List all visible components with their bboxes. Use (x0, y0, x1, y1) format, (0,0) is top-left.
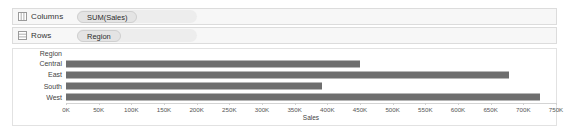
bar-west[interactable] (66, 94, 540, 101)
row-label-west[interactable]: West (13, 94, 66, 101)
bar-central[interactable] (66, 60, 360, 67)
row-label-central[interactable]: Central (13, 60, 66, 67)
x-axis-tick-label: 750K (549, 106, 563, 113)
x-axis-tick-label: 450K (353, 106, 367, 113)
chart-panel: Region CentralEastSouthWest Sales 0K50K1… (12, 48, 557, 126)
x-axis-tick (458, 103, 459, 105)
x-axis-title: Sales (66, 114, 556, 121)
x-axis: Sales 0K50K100K150K200K250K300K350K400K4… (66, 103, 556, 125)
x-axis-line (66, 103, 556, 104)
row-header-title: Region (13, 49, 66, 58)
x-axis-tick-label: 250K (222, 106, 236, 113)
x-axis-tick (131, 103, 132, 105)
row-header-title-text: Region (40, 50, 62, 57)
x-axis-tick-label: 700K (516, 106, 530, 113)
x-axis-tick (360, 103, 361, 105)
x-axis-tick (197, 103, 198, 105)
bar-rows: CentralEastSouthWest (13, 58, 556, 103)
x-axis-tick-label: 500K (385, 106, 399, 113)
x-axis-tick (393, 103, 394, 105)
x-axis-tick (425, 103, 426, 105)
columns-shelf-label: Columns (31, 12, 77, 21)
pill-region[interactable]: Region (77, 30, 121, 42)
x-axis-tick (327, 103, 328, 105)
x-axis-tick-label: 150K (157, 106, 171, 113)
chart-row: South (13, 81, 556, 92)
columns-shelf[interactable]: Columns SUM(Sales) (12, 8, 557, 25)
x-axis-tick (556, 103, 557, 105)
pill-sum-sales[interactable]: SUM(Sales) (77, 11, 137, 23)
x-axis-tick (99, 103, 100, 105)
x-axis-tick-label: 200K (189, 106, 203, 113)
bar-east[interactable] (66, 71, 509, 78)
row-label-south[interactable]: South (13, 83, 66, 90)
rows-pill-slot[interactable]: Region (77, 29, 197, 42)
x-axis-tick (295, 103, 296, 105)
rows-grid-icon (18, 31, 27, 40)
x-axis-tick (229, 103, 230, 105)
x-axis-tick-label: 650K (483, 106, 497, 113)
x-axis-tick-label: 100K (124, 106, 138, 113)
chart-row: West (13, 92, 556, 103)
columns-pill-slot[interactable]: SUM(Sales) (77, 10, 197, 23)
columns-grid-icon (18, 12, 27, 21)
x-axis-tick-label: 550K (418, 106, 432, 113)
chart-row: Central (13, 58, 556, 69)
rows-shelf[interactable]: Rows Region (12, 27, 557, 44)
bar-track (66, 69, 556, 80)
bar-track (66, 81, 556, 92)
x-axis-tick-label: 300K (255, 106, 269, 113)
x-axis-tick-label: 350K (287, 106, 301, 113)
tableau-worksheet: Columns SUM(Sales) Rows Region Region Ce… (0, 0, 569, 136)
rows-shelf-label: Rows (31, 31, 77, 40)
x-axis-tick (491, 103, 492, 105)
x-axis-tick-label: 0K (62, 106, 70, 113)
x-axis-tick (523, 103, 524, 105)
bar-track (66, 92, 556, 103)
x-axis-tick (66, 103, 67, 105)
bar-south[interactable] (66, 83, 322, 90)
shelf-area: Columns SUM(Sales) Rows Region (12, 8, 557, 46)
bar-track (66, 58, 556, 69)
chart-row: East (13, 69, 556, 80)
x-axis-tick (164, 103, 165, 105)
x-axis-tick-label: 400K (320, 106, 334, 113)
x-axis-tick-label: 50K (93, 106, 104, 113)
x-axis-tick-label: 600K (451, 106, 465, 113)
x-axis-tick (262, 103, 263, 105)
row-label-east[interactable]: East (13, 71, 66, 78)
